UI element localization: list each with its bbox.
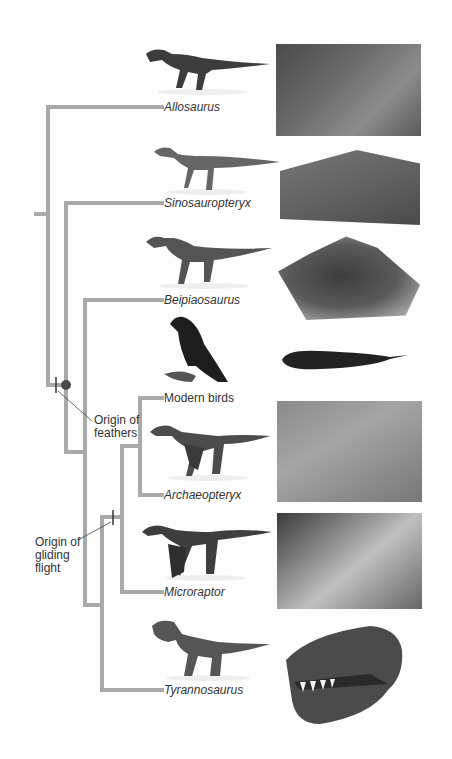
microraptor-illustration (140, 520, 275, 582)
taxon-label-archaeopteryx: Archaeopteryx (164, 488, 241, 502)
beipiaosaurus-illustration (144, 232, 274, 290)
archaeopteryx-fossil-photo (277, 401, 422, 502)
taxon-label-modern-birds: Modern birds (164, 391, 234, 405)
sinosauropteryx-illustration (152, 140, 282, 196)
annotation-origin-of-feathers: Origin of feathers (94, 414, 139, 440)
taxon-label-sinosauropteryx: Sinosauropteryx (164, 196, 251, 210)
archaeopteryx-illustration (148, 422, 273, 482)
tyrannosaurus-illustration (148, 618, 273, 682)
gliding-leader-line (78, 522, 111, 540)
annotation-origin-of-gliding-flight: Origin of gliding flight (35, 536, 80, 575)
modern-bird-illustration (162, 310, 232, 390)
taxon-label-allosaurus: Allosaurus (164, 100, 220, 114)
allosaurus-skull-fossil-photo (276, 44, 421, 136)
feather-photo (280, 345, 410, 375)
microraptor-fossil-photo (277, 513, 422, 609)
taxon-label-tyrannosaurus: Tyrannosaurus (164, 683, 243, 697)
taxon-label-microraptor: Microraptor (164, 585, 225, 599)
taxon-label-beipiaosaurus: Beipiaosaurus (164, 293, 240, 307)
feather-node-dot (61, 380, 71, 390)
allosaurus-illustration (142, 44, 272, 96)
tyrannosaurus-skull-photo (280, 620, 410, 728)
